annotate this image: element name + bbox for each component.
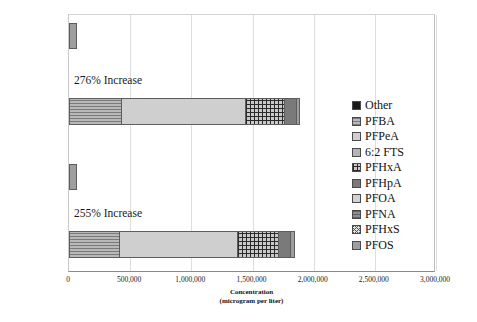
legend-swatch-icon xyxy=(352,210,361,219)
x-axis-title-main: Concentration xyxy=(68,288,435,297)
legend-swatch-icon xyxy=(352,101,361,110)
legend-label: PFBA xyxy=(365,114,395,129)
bar-segment-pfpea xyxy=(120,231,238,258)
legend-item[interactable]: PFHxS xyxy=(352,222,404,238)
x-axis-tick-label: 0 xyxy=(66,275,70,284)
x-axis-tick-label: 2,000,000 xyxy=(298,275,328,284)
legend-swatch-icon xyxy=(352,225,361,234)
legend-label: 6:2 FTS xyxy=(365,145,404,160)
bar-segment-pfos xyxy=(69,23,77,49)
x-axis-title-units: (microgram per liter) xyxy=(68,297,435,306)
legend-label: PFHpA xyxy=(365,176,402,191)
legend-swatch-icon xyxy=(352,163,361,172)
legend-swatch-icon xyxy=(352,132,361,141)
bar-segment-pfpea xyxy=(122,98,246,125)
x-axis-tick-label: 2,500,000 xyxy=(359,275,389,284)
bar-segment-pfhxa xyxy=(246,98,285,125)
stacked-bar xyxy=(69,164,77,190)
bar-segment-pfhxa xyxy=(238,231,280,258)
x-axis-title: Concentration (microgram per liter) xyxy=(68,288,435,306)
legend-swatch-icon xyxy=(352,194,361,203)
legend-item[interactable]: PFNA xyxy=(352,207,404,223)
legend-item[interactable]: PFBA xyxy=(352,114,404,130)
legend-label: PFNA xyxy=(365,207,396,222)
legend-item[interactable]: 6:2 FTS xyxy=(352,145,404,161)
chart-container: Sample 2Pre-TOPSample 2Post-TOPSample 1P… xyxy=(0,0,477,322)
legend-item[interactable]: PFHxA xyxy=(352,160,404,176)
increase-annotation: 255% Increase xyxy=(74,207,142,219)
legend-item[interactable]: PFOS xyxy=(352,238,404,254)
legend-label: PFOS xyxy=(365,238,394,253)
legend-label: PFHxA xyxy=(365,160,402,175)
bar-segment-pfba xyxy=(69,231,120,258)
gridline xyxy=(436,15,437,271)
legend-label: PFHxS xyxy=(365,222,400,237)
legend-swatch-icon xyxy=(352,117,361,126)
legend-label: PFPeA xyxy=(365,129,399,144)
bar-segment-pfos xyxy=(69,164,77,190)
legend-label: PFOA xyxy=(365,191,396,206)
legend-label: Other xyxy=(365,98,392,113)
x-axis-tick-label: 1,000,000 xyxy=(175,275,205,284)
bar-segment-pfos xyxy=(297,98,301,125)
stacked-bar xyxy=(69,231,295,258)
bar-segment-pfba xyxy=(69,98,122,125)
increase-annotation: 276% Increase xyxy=(74,74,142,86)
legend-swatch-icon xyxy=(352,179,361,188)
gridline xyxy=(314,15,315,271)
x-axis-tick-label: 3,000,000 xyxy=(420,275,450,284)
legend-item[interactable]: Other xyxy=(352,98,404,114)
stacked-bar xyxy=(69,98,300,125)
bar-segment-pfhpa xyxy=(279,231,291,258)
legend: OtherPFBAPFPeA6:2 FTSPFHxAPFHpAPFOAPFNAP… xyxy=(352,98,404,253)
stacked-bar xyxy=(69,23,77,49)
legend-item[interactable]: PFHpA xyxy=(352,176,404,192)
legend-swatch-icon xyxy=(352,241,361,250)
legend-item[interactable]: PFOA xyxy=(352,191,404,207)
x-axis-tick-label: 500,000 xyxy=(117,275,141,284)
bar-segment-pfhpa xyxy=(285,98,297,125)
legend-item[interactable]: PFPeA xyxy=(352,129,404,145)
bar-segment-pfos xyxy=(291,231,295,258)
legend-swatch-icon xyxy=(352,148,361,157)
x-axis-tick-label: 1,500,000 xyxy=(237,275,267,284)
